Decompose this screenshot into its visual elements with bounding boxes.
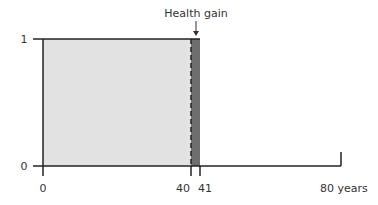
y-tick-0: 0: [21, 160, 28, 173]
chart: Health gain 1 0 0 40 41 80 years: [0, 0, 378, 205]
x-tick-40: 40: [176, 182, 190, 195]
y-tick-1: 1: [21, 33, 28, 46]
baseline-area: [43, 39, 191, 166]
health-gain-band: [191, 39, 200, 166]
arrow-head-icon: [193, 31, 199, 36]
annotation-label: Health gain: [164, 7, 227, 20]
x-tick-0: 0: [40, 182, 47, 195]
x-tick-80: 80 years: [320, 182, 368, 195]
x-tick-41: 41: [198, 182, 212, 195]
